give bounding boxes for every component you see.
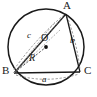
geometry-canvas <box>0 0 97 97</box>
radius-label-r: R <box>29 53 35 63</box>
side-ab <box>14 14 66 73</box>
circumcenter-dot <box>44 45 48 49</box>
vertex-label-c: C <box>84 65 91 76</box>
guide-ray-b2 <box>14 30 60 73</box>
vertex-label-b: B <box>2 65 9 76</box>
center-label-o: O <box>41 33 48 43</box>
vertex-label-a: A <box>63 0 71 11</box>
side-label-c: c <box>27 31 31 40</box>
side-label-a: a <box>42 75 47 84</box>
guide-ray-b1 <box>14 22 55 73</box>
side-label-b: b <box>70 36 75 45</box>
geometry-figure: A B C O a b c R <box>0 0 97 97</box>
side-bc <box>14 72 80 73</box>
